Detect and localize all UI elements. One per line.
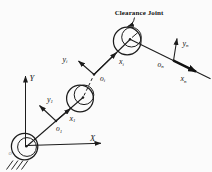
ground-joint: o xyxy=(7,133,38,169)
frame-n-y-axis xyxy=(174,39,178,61)
frame-1-origin-dot xyxy=(55,120,57,122)
ground-hatching xyxy=(7,161,29,170)
top-joint-bearing-circle xyxy=(113,27,141,55)
frame-1-y-label: y1 xyxy=(46,95,53,105)
link-1: y1 x1 o1 xyxy=(27,95,84,147)
global-x-axis-label: X xyxy=(89,133,96,143)
intermediate-joint-center-dot xyxy=(82,96,84,98)
frame-1-y-axis xyxy=(40,106,57,122)
link-i: yi xi oi xyxy=(62,40,131,84)
frame-i-y-label: yi xyxy=(62,55,69,65)
frame-i-origin-dot xyxy=(93,73,95,75)
clearance-joint-callout: Clearance Joint xyxy=(115,9,164,27)
frame-1-origin-label: o1 xyxy=(56,124,62,134)
frame-n-origin-label: on xyxy=(158,60,165,70)
frame-i-y-axis xyxy=(79,61,95,75)
intermediate-joint-bearing-circle xyxy=(67,85,94,112)
link-n-line xyxy=(130,39,211,79)
frame-i-origin-label: oi xyxy=(100,74,106,84)
top-joint-journal-circle xyxy=(122,27,142,47)
frame-1-x-label: x1 xyxy=(69,114,76,124)
frame-i-x-label: xi xyxy=(118,57,125,67)
frame-n-y-label: yn xyxy=(182,39,190,49)
frame-n-x-axis xyxy=(174,61,197,72)
top-joint-radius-tick xyxy=(132,33,138,38)
clearance-joint-figure: o Y X y1 x1 o1 xyxy=(0,0,212,172)
top-clearance-joint xyxy=(113,27,141,55)
frame-n-x-label: xn xyxy=(180,74,188,84)
frame-1-x-axis xyxy=(56,109,71,122)
mechanism-diagram: o Y X y1 x1 o1 xyxy=(0,0,212,172)
clearance-joint-callout-label: Clearance Joint xyxy=(115,9,164,17)
frame-i-x-axis xyxy=(94,53,117,75)
frame-n-origin-dot xyxy=(172,60,174,62)
intermediate-joint xyxy=(67,76,94,112)
link-n: yn xn on xyxy=(130,39,211,84)
clearance-joint-callout-arrow xyxy=(128,18,135,27)
global-y-axis-label: Y xyxy=(30,73,36,83)
